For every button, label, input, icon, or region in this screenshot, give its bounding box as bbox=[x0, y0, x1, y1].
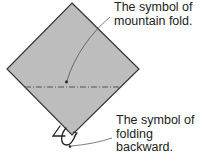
mountain-fold-label-line-2: mountain fold. bbox=[114, 15, 193, 29]
folding-backward-label-line-2: folding bbox=[116, 128, 195, 142]
folding-backward-label-line-3: backward. bbox=[116, 141, 195, 155]
folding-backward-label: The symbol of folding backward. bbox=[116, 114, 195, 155]
mountain-fold-leader-dot bbox=[65, 81, 68, 84]
origami-diagram: The symbol of mountain fold. The symbol … bbox=[0, 0, 202, 167]
folding-backward-leader-line bbox=[71, 138, 112, 146]
mountain-fold-label-line-1: The symbol of bbox=[114, 1, 193, 15]
folding-backward-label-line-1: The symbol of bbox=[116, 114, 195, 128]
folding-backward-leader-dot bbox=[69, 145, 72, 148]
mountain-fold-label: The symbol of mountain fold. bbox=[114, 1, 193, 28]
